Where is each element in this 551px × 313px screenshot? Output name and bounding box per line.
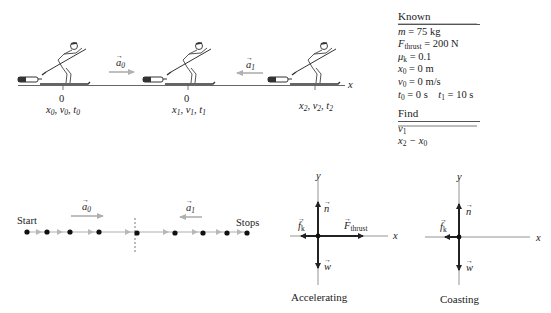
- fbd-coast-x-label: x: [536, 232, 541, 244]
- fbd-acc-thrust-label: Fthrust: [344, 220, 368, 232]
- fbd-acc-friction-label: fk: [298, 220, 305, 232]
- known-heading: Known: [398, 10, 480, 25]
- find-displacement: x2 − x0: [398, 135, 480, 148]
- fbd-acc-y-label: y: [316, 170, 321, 182]
- motion-accel-label-a1: a1: [186, 202, 195, 214]
- known-thrust: Fthrust = 200 N: [398, 38, 480, 51]
- fbd-coast-caption: Coasting: [440, 293, 479, 305]
- fbd-acc-caption: Accelerating: [291, 291, 347, 303]
- accel-label-a1: a1: [246, 59, 255, 71]
- point-label-1: x1, v1, t1: [172, 104, 206, 116]
- find-heading: Find: [398, 107, 480, 122]
- motion-accel-label-a0: a0: [82, 201, 91, 213]
- skier-figure-2: [268, 43, 340, 85]
- skier-figure-1: [143, 43, 215, 85]
- motion-start-label: Start: [17, 215, 37, 227]
- fbd-coast-friction-label: fk: [440, 221, 447, 233]
- find-v1: v1: [398, 123, 480, 136]
- pictorial-x-axis: [18, 85, 345, 90]
- fbd-coast-normal-label: n: [466, 206, 471, 218]
- known-find-panel: Known m = 75 kg Fthrust = 200 N μk = 0.1…: [398, 10, 480, 148]
- known-times: t0 = 0 s t1 = 10 s: [398, 89, 480, 102]
- known-v0: v0 = 0 m/s: [398, 76, 480, 89]
- point-label-0: x0, v0, t0: [46, 104, 80, 116]
- accel-label-a0: a0: [116, 57, 125, 69]
- motion-diagram: [24, 216, 249, 252]
- known-mass: m = 75 kg: [398, 26, 480, 39]
- fbd-acc-weight-label: w: [324, 261, 331, 273]
- fbd-coast-y-label: y: [457, 171, 462, 183]
- x-axis-label: x: [348, 79, 353, 91]
- point-label-2: x2, v2, t2: [299, 100, 333, 112]
- skier-figure-0: [18, 43, 90, 85]
- fbd-acc-x-label: x: [393, 230, 398, 242]
- known-friction-coeff: μk = 0.1: [398, 51, 480, 64]
- fbd-coast-weight-label: w: [466, 262, 473, 274]
- known-x0: x0 = 0 m: [398, 63, 480, 76]
- motion-stops-label: Stops: [236, 217, 259, 229]
- fbd-acc-normal-label: n: [324, 203, 329, 215]
